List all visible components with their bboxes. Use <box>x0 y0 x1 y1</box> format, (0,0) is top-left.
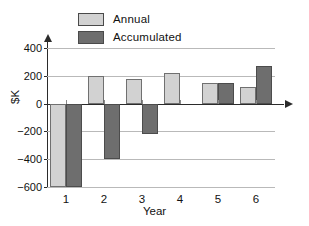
legend-item-accumulated[interactable]: Accumulated <box>78 30 182 45</box>
legend-label-annual: Annual <box>113 13 150 26</box>
x-tick-mark <box>180 100 181 104</box>
x-axis-title: Year <box>0 205 309 217</box>
bar-group <box>164 48 196 187</box>
x-tick-mark <box>256 100 257 104</box>
y-tick-label: −600 <box>17 182 42 193</box>
y-tick-label: −400 <box>17 154 42 165</box>
y-tick-label: 400 <box>24 43 42 54</box>
bar-accumulated-year-2[interactable] <box>104 104 120 160</box>
bar-annual-year-6[interactable] <box>240 87 256 104</box>
x-axis-arrow-icon <box>285 100 293 108</box>
bar-accumulated-year-5[interactable] <box>218 83 234 104</box>
x-tick-label: 3 <box>122 193 162 205</box>
x-tick-mark <box>142 100 143 104</box>
x-tick-mark <box>104 100 105 104</box>
bar-annual-year-2[interactable] <box>88 76 104 104</box>
x-tick-label: 5 <box>198 193 238 205</box>
x-tick-label: 1 <box>46 193 86 205</box>
bar-accumulated-year-3[interactable] <box>142 104 158 135</box>
legend-swatch-accumulated <box>78 31 104 44</box>
x-tick-label: 4 <box>160 193 200 205</box>
y-axis-title: $K <box>9 90 21 104</box>
bar-group <box>88 48 120 187</box>
y-axis-arrow-icon <box>44 34 52 42</box>
bar-group <box>240 48 272 187</box>
y-tick-label: 0 <box>36 98 42 109</box>
bar-group <box>202 48 234 187</box>
y-tick-label: −200 <box>17 126 42 137</box>
bar-accumulated-year-1[interactable] <box>66 104 82 187</box>
bars-layer <box>47 48 275 187</box>
bar-annual-year-3[interactable] <box>126 79 142 104</box>
bar-accumulated-year-6[interactable] <box>256 66 272 104</box>
bar-annual-year-5[interactable] <box>202 83 218 104</box>
chart-legend: Annual Accumulated <box>78 12 182 48</box>
legend-item-annual[interactable]: Annual <box>78 12 182 27</box>
plot-area: 4002000−200−400−600 123456 <box>47 48 290 187</box>
bar-chart: Annual Accumulated $K 4002000−200−400−60… <box>0 0 309 226</box>
y-tick-label: 200 <box>24 70 42 81</box>
x-tick-mark <box>66 100 67 104</box>
bar-group <box>50 48 82 187</box>
bar-group <box>126 48 158 187</box>
legend-swatch-annual <box>78 13 104 26</box>
y-tick-mark <box>44 187 47 188</box>
bar-annual-year-1[interactable] <box>50 104 66 187</box>
legend-label-accumulated: Accumulated <box>113 31 182 44</box>
gridline <box>47 187 275 188</box>
bar-annual-year-4[interactable] <box>164 73 180 104</box>
x-tick-label: 6 <box>236 193 276 205</box>
x-tick-mark <box>218 100 219 104</box>
x-tick-label: 2 <box>84 193 124 205</box>
